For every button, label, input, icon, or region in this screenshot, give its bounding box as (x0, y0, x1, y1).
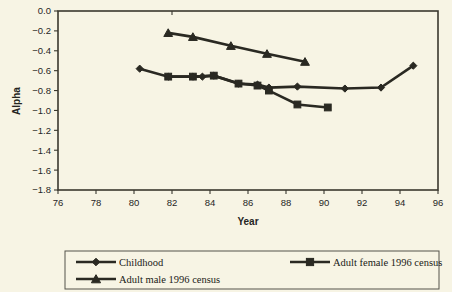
y-tick-label: −1.2 (32, 125, 51, 136)
y-tick-label: −1.4 (32, 145, 51, 156)
x-tick-label: 78 (91, 197, 102, 208)
data-point-square (306, 258, 313, 265)
x-tick-label: 94 (395, 197, 406, 208)
x-tick-label: 92 (357, 197, 368, 208)
data-point-square (235, 80, 242, 87)
y-tick-label: −1.6 (32, 165, 51, 176)
legend-label: Childhood (119, 257, 164, 268)
x-axis-title: Year (237, 216, 258, 227)
alpha-vs-year-line-chart: 0.0−0.2−0.4−0.6−0.8−1.0−1.2−1.4−1.6−1.8 … (0, 0, 452, 292)
x-tick-label: 90 (319, 197, 330, 208)
x-tick-label: 84 (205, 197, 216, 208)
y-tick-label: −0.4 (32, 45, 51, 56)
data-point-square (190, 73, 197, 80)
legend-label: Adult female 1996 census (333, 257, 442, 268)
y-tick-label: 0.0 (38, 5, 51, 16)
y-tick-label: −0.2 (32, 25, 51, 36)
x-tick-label: 82 (167, 197, 178, 208)
y-axis-title: Alpha (11, 87, 22, 115)
x-tick-label: 80 (129, 197, 140, 208)
legend-label: Adult male 1996 census (119, 274, 220, 285)
data-point-square (254, 82, 261, 89)
data-point-square (165, 73, 172, 80)
x-tick-label: 86 (243, 197, 254, 208)
y-tick-label: −0.8 (32, 85, 51, 96)
data-point-square (266, 87, 273, 94)
y-tick-label: −1.0 (32, 105, 51, 116)
data-point-square (324, 104, 331, 111)
y-tick-label: −0.6 (32, 65, 51, 76)
x-tick-label: 76 (53, 197, 64, 208)
data-point-square (294, 101, 301, 108)
data-point-square (210, 72, 217, 79)
chart-container: 0.0−0.2−0.4−0.6−0.8−1.0−1.2−1.4−1.6−1.8 … (0, 0, 452, 292)
x-tick-label: 96 (433, 197, 444, 208)
x-tick-label: 88 (281, 197, 292, 208)
y-tick-label: −1.8 (32, 184, 51, 195)
